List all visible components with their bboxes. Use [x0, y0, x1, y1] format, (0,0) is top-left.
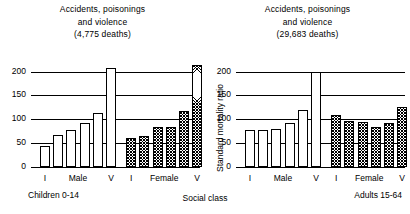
y-axis-tick	[236, 72, 241, 73]
y-axis-tick	[236, 143, 241, 144]
y-axis-tick-label: 50	[0, 138, 26, 147]
chart-panel-adults: Accidents, poisonings and violence (29,6…	[205, 0, 410, 214]
bar	[53, 135, 63, 167]
group-start-label: I	[241, 173, 259, 183]
gridline	[241, 119, 405, 120]
gridline	[241, 72, 405, 73]
chart-panel-children: Accidents, poisonings and violence (4,77…	[0, 0, 205, 214]
group-name-label: Male	[263, 173, 303, 183]
bar	[66, 130, 76, 167]
plot-area-children: 050100150200IMaleVIFemaleVChildren 0-14	[0, 0, 205, 214]
bar	[93, 113, 103, 167]
y-axis-label: Standard mortality ratio	[215, 84, 225, 172]
bar	[298, 110, 308, 167]
group-end-label: V	[307, 173, 325, 183]
bar	[106, 68, 116, 167]
group-name-label: Female	[144, 173, 184, 183]
gridline	[36, 95, 200, 96]
bar	[397, 107, 407, 167]
y-axis-tick	[236, 95, 241, 96]
y-axis-tick	[31, 72, 36, 73]
bar	[126, 138, 136, 167]
bar	[344, 121, 354, 167]
bar	[358, 122, 368, 167]
y-axis-tick-label: 100	[0, 114, 26, 123]
x-axis-line	[36, 167, 200, 168]
group-end-label: V	[393, 173, 410, 183]
group-end-label: V	[102, 173, 120, 183]
bar	[311, 72, 321, 167]
group-name-label: Female	[349, 173, 389, 183]
group-start-label: I	[36, 173, 54, 183]
bar	[371, 127, 381, 167]
y-axis-tick	[31, 95, 36, 96]
gridline	[36, 119, 200, 120]
x-axis-line	[241, 167, 405, 168]
group-name-label: Male	[58, 173, 98, 183]
bar	[179, 111, 189, 167]
group-end-label: V	[188, 173, 206, 183]
bar	[384, 123, 394, 167]
bar	[285, 123, 295, 167]
group-start-label: I	[327, 173, 345, 183]
bar	[192, 65, 202, 167]
bar	[166, 127, 176, 167]
bar	[271, 129, 281, 167]
gridline	[241, 95, 405, 96]
bar	[245, 130, 255, 167]
x-axis-label: Social class	[0, 193, 410, 203]
y-axis-tick	[31, 119, 36, 120]
chart-page: Accidents, poisonings and violence (4,77…	[0, 0, 410, 214]
bar	[258, 130, 268, 167]
plot-area-adults: 050100150200IMaleVIFemaleVAdults 15-64St…	[205, 0, 410, 214]
y-axis-tick-label: 150	[0, 90, 26, 99]
group-start-label: I	[122, 173, 140, 183]
y-axis-tick-label: 200	[205, 67, 231, 76]
y-axis-tick	[236, 119, 241, 120]
y-axis-tick	[31, 143, 36, 144]
bar	[139, 136, 149, 167]
y-axis-tick-label: 0	[0, 162, 26, 171]
bar	[40, 146, 50, 167]
bar	[153, 127, 163, 167]
bar	[331, 115, 341, 167]
bar	[80, 123, 90, 167]
gridline	[36, 72, 200, 73]
y-axis-tick-label: 200	[0, 67, 26, 76]
